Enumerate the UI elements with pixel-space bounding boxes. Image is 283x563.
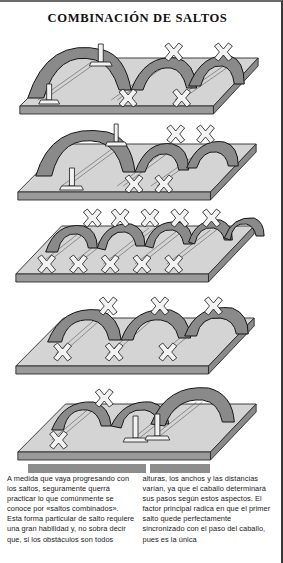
illustration-panel-2 (0, 116, 277, 216)
panel-4-svg (0, 292, 277, 392)
caption-divider-right (150, 464, 210, 473)
illustration-panel-1 (0, 28, 277, 128)
caption-text-right: alturas, los anchos y las distancias var… (143, 474, 272, 545)
panel-1-svg (0, 28, 277, 128)
illustration-panel-4 (0, 292, 277, 392)
illustration-panel-3 (0, 204, 277, 304)
panel-2-svg (0, 116, 277, 216)
caption-block: A medida que vaya progresando con los sa… (0, 474, 277, 563)
page-root: COMBINACIÓN DE SALTOS (0, 0, 283, 563)
caption-column-left: A medida que vaya progresando con los sa… (7, 474, 136, 563)
page-title: COMBINACIÓN DE SALTOS (0, 2, 281, 26)
caption-text-left: A medida que vaya progresando con los sa… (7, 474, 136, 545)
caption-divider-left (28, 464, 146, 473)
panel-3-svg (0, 204, 277, 304)
figure-panels (0, 28, 277, 468)
caption-column-right: alturas, los anchos y las distancias var… (143, 474, 272, 563)
